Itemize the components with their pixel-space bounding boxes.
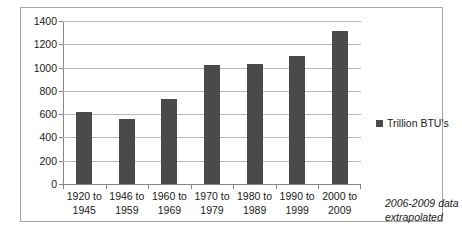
x-axis-tick-label-line: 2000 to	[312, 190, 368, 204]
x-axis-tick-label: 2000 to2009	[312, 190, 368, 217]
extrapolation-note-line2: extrapolated	[385, 211, 462, 225]
bar	[204, 65, 220, 184]
extrapolation-note-line1: 2006-2009 data	[385, 197, 462, 211]
x-axis-tick	[191, 184, 192, 189]
x-axis-ticks	[63, 184, 361, 189]
bar	[119, 119, 135, 184]
y-axis-tick-label: 600	[39, 109, 57, 120]
bar	[76, 112, 92, 184]
legend-swatch-icon	[376, 120, 383, 127]
extrapolation-note: 2006-2009 data extrapolated	[385, 197, 462, 224]
y-axis-tick-label: 0	[51, 179, 57, 190]
bar	[332, 31, 348, 184]
y-axis-tick	[59, 44, 63, 45]
y-axis-tick-label: 400	[39, 132, 57, 143]
bar	[161, 99, 177, 184]
chart-frame: 0200400600800100012001400 1920 to1945194…	[20, 7, 443, 222]
y-axis-tick	[59, 21, 63, 22]
x-axis-tick	[318, 184, 319, 189]
gridline	[63, 44, 361, 45]
y-axis-line	[63, 21, 64, 184]
y-axis-tick	[59, 68, 63, 69]
y-axis-tick-label: 200	[39, 155, 57, 166]
legend: Trillion BTU's	[376, 118, 449, 129]
x-axis-tick	[360, 184, 361, 189]
y-axis-tick	[59, 114, 63, 115]
x-axis-tick	[63, 184, 64, 189]
y-axis-tick-label: 1000	[34, 62, 57, 73]
y-axis-tick	[59, 137, 63, 138]
bar	[289, 56, 305, 184]
plot-area: 0200400600800100012001400	[63, 21, 361, 184]
x-axis-tick	[148, 184, 149, 189]
y-axis-tick	[59, 91, 63, 92]
x-axis-tick	[106, 184, 107, 189]
y-axis-tick	[59, 161, 63, 162]
x-axis-tick-label-line: 2009	[312, 204, 368, 218]
x-axis-tick	[276, 184, 277, 189]
y-axis-tick-label: 1200	[34, 39, 57, 50]
x-axis-labels: 1920 to19451946 to19591960 to19691970 to…	[63, 190, 361, 224]
bar	[247, 64, 263, 184]
y-axis-tick-label: 1400	[34, 16, 57, 27]
y-axis-tick-label: 800	[39, 86, 57, 97]
legend-label: Trillion BTU's	[387, 118, 449, 129]
gridline	[63, 21, 361, 22]
x-axis-tick	[233, 184, 234, 189]
